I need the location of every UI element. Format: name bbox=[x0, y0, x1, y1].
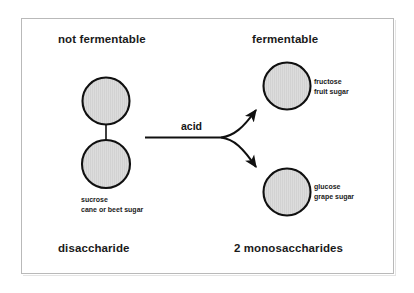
glucose-circle bbox=[264, 169, 311, 216]
sucrose-name: sucrose bbox=[81, 195, 143, 205]
sucrose-label: sucrose cane or beet sugar bbox=[81, 195, 143, 214]
footer-disaccharide: disaccharide bbox=[58, 242, 130, 254]
fructose-circle bbox=[264, 63, 311, 110]
sucrose-subunit-bottom-circle bbox=[82, 140, 130, 188]
glucose-name: glucose bbox=[314, 182, 354, 192]
header-fermentable: fermentable bbox=[252, 33, 318, 45]
footer-monosaccharides: 2 monosaccharides bbox=[234, 242, 343, 254]
fructose-label: fructose fruit sugar bbox=[314, 77, 349, 96]
sucrose-common-name: cane or beet sugar bbox=[81, 205, 143, 215]
fructose-name: fructose bbox=[314, 77, 349, 87]
reaction-condition-label: acid bbox=[181, 120, 202, 132]
reaction-arrow-to-glucose bbox=[221, 138, 256, 168]
header-not-fermentable: not fermentable bbox=[58, 33, 146, 45]
sucrose-subunit-top-circle bbox=[83, 78, 130, 125]
glucose-common-name: grape sugar bbox=[314, 192, 354, 202]
glucose-label: glucose grape sugar bbox=[314, 182, 354, 201]
diagram-figure: not fermentable fermentable acid sucrose… bbox=[0, 0, 414, 293]
reaction-arrow-to-fructose bbox=[221, 110, 256, 138]
fructose-common-name: fruit sugar bbox=[314, 87, 349, 97]
